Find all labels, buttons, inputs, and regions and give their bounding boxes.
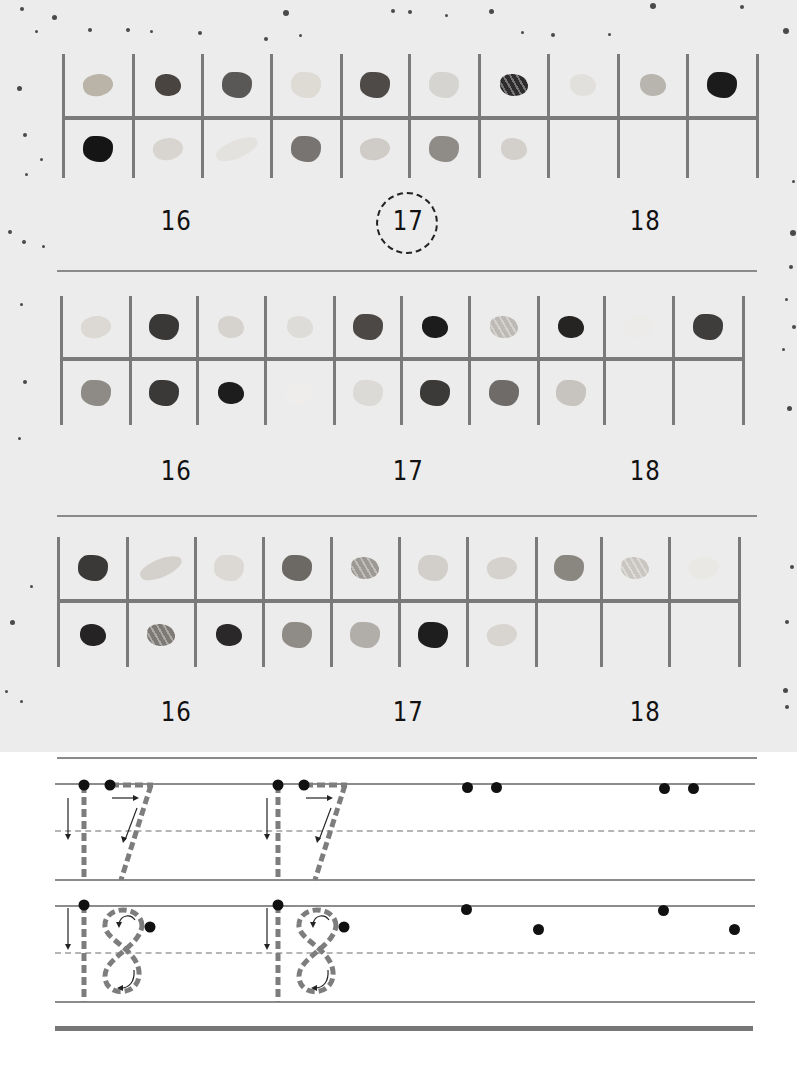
rock-chunk	[429, 72, 459, 98]
background-speck	[790, 565, 794, 569]
grid-horizontal-line	[57, 599, 741, 603]
rock-chunk	[282, 555, 312, 581]
grid-horizontal-line	[60, 357, 745, 361]
start-dot-7[interactable]	[491, 782, 502, 793]
background-speck	[20, 303, 23, 306]
background-speck	[20, 7, 24, 11]
background-speck	[521, 31, 524, 34]
rock-chunk	[554, 555, 584, 581]
background-speck	[785, 705, 789, 709]
background-speck	[792, 325, 796, 329]
background-speck	[23, 133, 27, 137]
background-speck	[25, 173, 28, 176]
trace-digit-18[interactable]	[55, 900, 165, 1010]
rock-chunk	[78, 555, 108, 581]
answer-option-16[interactable]: 16	[161, 205, 192, 236]
rock-chunk	[556, 380, 586, 406]
answer-option-17[interactable]: 17	[393, 696, 424, 727]
background-speck	[408, 10, 412, 14]
background-speck	[22, 240, 26, 244]
rock-tumbled	[640, 74, 666, 96]
section-divider	[57, 757, 757, 759]
rock-chunk	[420, 380, 450, 406]
background-speck	[740, 5, 744, 9]
start-dot-8[interactable]	[729, 924, 740, 935]
rock-chunk	[83, 136, 113, 162]
rock-chunk	[214, 555, 244, 581]
trace-digit-17[interactable]	[250, 778, 360, 888]
page-bottom-rule	[55, 1026, 753, 1031]
background-speck	[790, 230, 796, 236]
selected-answer-circle	[376, 192, 438, 254]
start-dot-1[interactable]	[462, 782, 473, 793]
background-speck	[608, 33, 611, 36]
rock-tumbled	[501, 138, 527, 160]
start-dot-8[interactable]	[533, 924, 544, 935]
background-speck	[785, 620, 789, 624]
background-speck	[792, 180, 795, 183]
background-speck	[198, 31, 202, 35]
start-dot-7[interactable]	[688, 783, 699, 794]
rock-tumbled	[570, 74, 596, 96]
section-divider	[57, 270, 757, 272]
rock-banded	[147, 624, 175, 646]
background-speck	[17, 86, 22, 91]
background-speck	[299, 34, 302, 37]
background-speck	[787, 406, 792, 411]
rock-chunk	[489, 380, 519, 406]
background-speck	[445, 14, 448, 17]
rock-chunk	[149, 314, 179, 340]
background-speck	[88, 28, 92, 32]
background-speck	[264, 37, 268, 41]
start-dot-1[interactable]	[659, 783, 670, 794]
background-speck	[650, 3, 656, 9]
background-speck	[783, 688, 788, 693]
rock-chunk	[291, 136, 321, 162]
background-speck	[30, 585, 33, 588]
rock-chunk	[81, 380, 111, 406]
background-speck	[150, 30, 153, 33]
rock-tumbled	[287, 316, 313, 338]
rock-tumbled	[216, 624, 242, 646]
rock-chunk	[149, 380, 179, 406]
background-speck	[10, 620, 15, 625]
answer-option-18[interactable]: 18	[630, 696, 661, 727]
rock-chunk	[707, 72, 737, 98]
rock-banded	[490, 316, 518, 338]
background-speck	[40, 158, 43, 161]
start-dot-1[interactable]	[461, 904, 472, 915]
rock-tumbled	[155, 74, 181, 96]
rock-chunk	[418, 622, 448, 648]
answer-option-18[interactable]: 18	[630, 205, 661, 236]
grid-horizontal-line	[62, 116, 759, 120]
rock-banded	[621, 557, 649, 579]
rock-chunk	[360, 72, 390, 98]
rock-chunk	[222, 72, 252, 98]
background-speck	[283, 10, 289, 16]
rock-chunk	[291, 72, 321, 98]
rock-chunk	[429, 136, 459, 162]
background-speck	[489, 9, 494, 14]
background-speck	[18, 437, 21, 440]
background-speck	[782, 348, 785, 351]
background-speck	[52, 15, 57, 20]
background-speck	[126, 28, 130, 32]
background-speck	[391, 9, 395, 13]
background-speck	[789, 265, 793, 269]
trace-digit-17[interactable]	[55, 778, 165, 888]
answer-option-18[interactable]: 18	[630, 455, 661, 486]
answer-option-16[interactable]: 16	[161, 455, 192, 486]
background-speck	[783, 28, 789, 34]
answer-option-17[interactable]: 17	[393, 455, 424, 486]
rock-tumbled	[558, 316, 584, 338]
start-dot-1[interactable]	[658, 905, 669, 916]
answer-option-16[interactable]: 16	[161, 696, 192, 727]
rock-banded	[500, 74, 528, 96]
rock-banded	[351, 557, 379, 579]
background-speck	[35, 30, 38, 33]
rock-chunk	[418, 555, 448, 581]
background-speck	[551, 33, 555, 37]
rock-chunk	[350, 622, 380, 648]
background-speck	[42, 245, 45, 248]
trace-digit-18[interactable]	[250, 900, 360, 1010]
